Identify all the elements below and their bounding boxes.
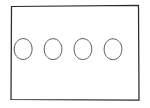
sketch-drawing xyxy=(0,0,150,108)
sketch-canvas xyxy=(0,0,150,108)
